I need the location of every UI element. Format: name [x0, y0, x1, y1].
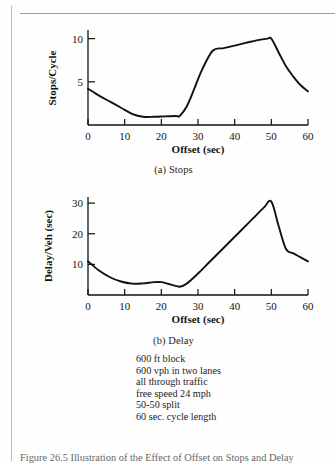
figure-note-line: 600 ft block	[136, 353, 335, 365]
x-tick-label: 40	[229, 130, 241, 142]
chart-panel-delay: 102030 0102030405060 Delay/Veh (sec) Off…	[12, 183, 335, 346]
chart-panel-stops: 510 0102030405060 Stops/Cycle Offset (se…	[12, 14, 335, 175]
x-tick-label: 50	[266, 300, 278, 312]
figure-note-line: 600 vph in two lanes	[136, 365, 335, 377]
figure-note-line: 50-50 split	[136, 399, 335, 411]
x-tick-label: 20	[156, 130, 168, 142]
x-tick-label: 40	[229, 300, 241, 312]
stops-curve	[88, 38, 308, 117]
y-ticks-group-b: 102030	[72, 197, 95, 270]
y-axis-title-b: Delay/Veh (sec)	[42, 210, 55, 282]
x-tick-label: 10	[119, 130, 130, 142]
figure-note-line: free speed 24 mph	[136, 388, 335, 400]
figure-body: 510 0102030405060 Stops/Cycle Offset (se…	[12, 14, 335, 461]
x-tick-label: 30	[193, 300, 205, 312]
x-tick-label: 50	[266, 130, 278, 142]
x-tick-label: 60	[303, 130, 315, 142]
stops-chart-svg: 510 0102030405060 Stops/Cycle Offset (se…	[12, 14, 335, 164]
x-ticks-group-b: 0102030405060	[85, 289, 314, 312]
figure-note-line: all through traffic	[136, 376, 335, 388]
delay-curve	[88, 201, 308, 287]
y-ticks-group-a: 510	[72, 33, 95, 88]
y-tick-label: 5	[78, 76, 84, 88]
delay-chart-svg: 102030 0102030405060 Delay/Veh (sec) Off…	[12, 183, 335, 335]
y-tick-label: 10	[72, 258, 84, 270]
figure-notes: 600 ft block600 vph in two lanesall thro…	[12, 353, 335, 423]
subcaption-stops: (a) Stops	[12, 164, 335, 175]
x-tick-label: 0	[85, 130, 91, 142]
y-tick-label: 10	[72, 33, 84, 45]
x-tick-label: 60	[303, 300, 315, 312]
x-tick-label: 0	[85, 300, 91, 312]
x-tick-label: 20	[156, 300, 168, 312]
y-axis-title-a: Stops/Cycle	[46, 50, 58, 105]
figure-caption-text: Figure 26.5 Illustration of the Effect o…	[20, 452, 294, 463]
x-axis-title-b: Offset (sec)	[172, 313, 225, 326]
y-tick-label: 20	[72, 228, 84, 240]
subcaption-delay: (b) Delay	[12, 335, 335, 346]
figure-note-line: 60 sec. cycle length	[136, 411, 335, 423]
y-tick-label: 30	[72, 197, 84, 209]
figure-caption: Figure 26.5 Illustration of the Effect o…	[20, 452, 335, 463]
x-tick-label: 10	[119, 300, 130, 312]
x-ticks-group-a: 0102030405060	[85, 119, 314, 142]
x-tick-label: 30	[193, 130, 205, 142]
x-axis-title-a: Offset (sec)	[172, 143, 225, 156]
